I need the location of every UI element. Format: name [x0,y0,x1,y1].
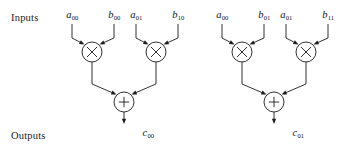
product-arrow-right-0 [261,91,267,95]
output-arrow-left [122,119,126,124]
product-wire-left-0 [92,62,112,93]
output-label-c00: c00 [142,127,153,138]
output-label-c01: c01 [292,127,303,138]
input-label-b01-right-0-1: b01 [258,9,270,20]
input-label-a01-left-1-0: a01 [130,9,142,20]
input-arrow-left-1-0 [143,40,149,44]
input-arrow-left-0-1 [100,40,106,44]
input-arrow-left-1-1 [164,40,170,44]
input-wire-left-0-1 [104,24,114,43]
input-arrow-right-1-1 [314,40,320,44]
input-arrow-left-0-0 [79,40,85,44]
input-wire-right-1-1 [318,24,328,43]
wires [72,24,328,124]
input-label-b11-right-1-1: b11 [322,9,333,20]
input-label-b10-left-1-1: b10 [172,9,184,20]
product-arrow-left-0 [111,91,117,95]
output-arrow-right [272,119,276,124]
input-wire-left-1-0 [136,24,144,42]
dataflow-diagram: Inputs Outputs a00b00a01b10c00a00b01a01b… [0,0,352,154]
input-label-a00-right-0-0: a00 [216,9,228,20]
input-wire-right-1-0 [286,24,294,42]
product-wire-right-0 [242,62,262,93]
input-label-a01-right-1-0: a01 [280,9,292,20]
product-arrow-left-1 [132,91,138,95]
input-wire-left-0-0 [72,24,80,42]
product-wire-left-1 [136,62,156,93]
input-wire-right-0-1 [254,24,264,43]
input-arrow-right-0-0 [229,40,235,44]
input-arrow-right-1-0 [293,40,299,44]
product-wire-right-1 [286,62,306,93]
input-label-b00-left-0-1: b00 [108,9,120,20]
input-label-a00-left-0-0: a00 [66,9,78,20]
operator-nodes [82,42,316,112]
input-wire-right-0-0 [222,24,230,42]
product-arrow-right-1 [282,91,288,95]
input-arrow-right-0-1 [250,40,256,44]
input-wire-left-1-1 [168,24,178,43]
